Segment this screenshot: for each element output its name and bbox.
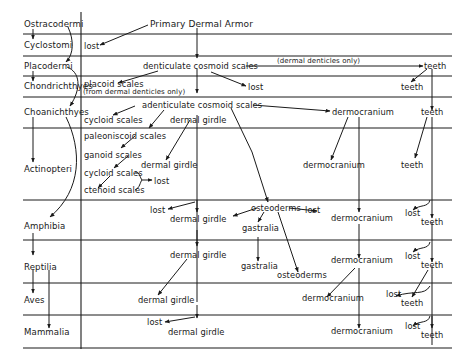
label-adenticulate-cosmoid-scales: adenticulate cosmoid scales bbox=[142, 101, 262, 109]
taxon-choanichthyes: Choanichthyes bbox=[24, 108, 89, 117]
diagram-title: Primary Dermal Armor bbox=[150, 20, 253, 29]
label-teeth: teeth bbox=[421, 108, 443, 116]
label-dermal-girdle: dermal girdle bbox=[170, 116, 227, 124]
label-lost: lost bbox=[305, 206, 320, 214]
taxon-ostracodermi: Ostracodermi bbox=[24, 20, 83, 29]
diagram-lines bbox=[0, 0, 463, 361]
label-dermal-girdle: dermal girdle bbox=[138, 296, 195, 304]
label-lost: lost bbox=[154, 177, 169, 185]
label-gastralia: gastralia bbox=[241, 262, 278, 270]
label-dermocranium: dermocranium bbox=[332, 108, 394, 116]
label-lost: lost bbox=[147, 318, 162, 326]
taxon-reptilia: Reptilia bbox=[24, 263, 57, 272]
label-ctenoid-scales: ctenoid scales bbox=[84, 186, 145, 194]
label-gastralia: gastralia bbox=[242, 224, 279, 232]
dermal-armor-evolution-diagram: Ostracodermi Cyclostomi Placodermi Chond… bbox=[0, 0, 463, 361]
taxon-mammalia: Mammalia bbox=[24, 328, 70, 337]
label-osteoderms: osteoderms bbox=[251, 204, 301, 212]
label-placoid-note: (from dermal denticles only) bbox=[83, 89, 185, 96]
label-cycloid-scales: cycloid scales bbox=[84, 116, 143, 124]
label-cycloid-scales: cycloid scales bbox=[84, 169, 143, 177]
label-dermal-girdle: dermal girdle bbox=[168, 328, 225, 336]
label-lost: lost bbox=[150, 206, 165, 214]
label-denticulate-cosmoid-scales: denticulate cosmoid scales bbox=[143, 62, 258, 70]
label-teeth: teeth bbox=[401, 299, 423, 307]
label-dermal-denticles-note: (dermal denticles only) bbox=[277, 58, 360, 65]
label-dermocranium: dermocranium bbox=[331, 214, 393, 222]
label-dermal-girdle: dermal girdle bbox=[141, 161, 198, 169]
label-dermocranium: dermocranium bbox=[331, 256, 393, 264]
label-teeth: teeth bbox=[421, 218, 443, 226]
label-ganoid-scales: ganoid scales bbox=[84, 151, 142, 159]
label-lost: lost bbox=[405, 322, 420, 330]
label-paleoniscoid-scales: paleoniscoid scales bbox=[84, 132, 166, 140]
label-lost: lost bbox=[386, 290, 401, 298]
label-teeth: teeth bbox=[401, 83, 423, 91]
label-teeth: teeth bbox=[421, 331, 443, 339]
taxon-actinopteri: Actinopteri bbox=[24, 165, 72, 174]
label-lost: lost bbox=[405, 252, 420, 260]
taxon-cyclostomi: Cyclostomi bbox=[24, 41, 72, 50]
label-dermocranium: dermocranium bbox=[302, 294, 364, 302]
taxon-placodermi: Placodermi bbox=[24, 62, 73, 71]
taxon-aves: Aves bbox=[24, 296, 45, 305]
label-lost: lost bbox=[84, 42, 99, 50]
label-dermocranium: dermocranium bbox=[303, 161, 365, 169]
label-teeth: teeth bbox=[421, 261, 443, 269]
label-dermocranium: dermocranium bbox=[331, 327, 393, 335]
label-dermal-girdle: dermal girdle bbox=[170, 251, 227, 259]
label-teeth: teeth bbox=[401, 161, 423, 169]
label-teeth: teeth bbox=[424, 62, 446, 70]
label-lost: lost bbox=[248, 83, 263, 91]
label-lost: lost bbox=[405, 209, 420, 217]
taxon-amphibia: Amphibia bbox=[24, 222, 65, 231]
label-dermal-girdle: dermal girdle bbox=[170, 215, 227, 223]
label-osteoderms: osteoderms bbox=[277, 271, 327, 279]
